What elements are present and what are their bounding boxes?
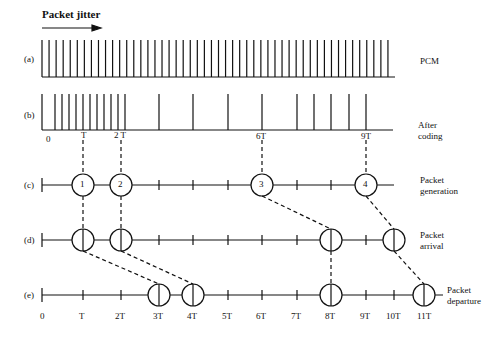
row-label-generation-1: Packet [420, 175, 444, 186]
row-label-departure-2: departure [447, 296, 481, 307]
time-3T: 3T [153, 311, 163, 322]
row-tag-a: (a) [24, 54, 34, 65]
packet-4: 4 [363, 179, 368, 190]
row-label-after: After [418, 120, 437, 131]
time-4T: 4T [187, 311, 197, 322]
row-label-arrival-2: arrival [420, 241, 443, 252]
packet-2: 2 [118, 179, 123, 190]
b-tick-T: T [81, 130, 87, 141]
arrow-right-icon [42, 25, 101, 31]
packet-jitter-diagram [0, 0, 499, 337]
packet-generation-timeline [42, 174, 394, 196]
packet-arrival-timeline [42, 229, 405, 251]
time-7T: 7T [291, 311, 301, 322]
row-tag-b: (b) [24, 110, 35, 121]
b-tick-9T: 9T [361, 131, 371, 142]
b-tick-2T: 2 T [114, 130, 126, 141]
time-T: T [79, 311, 85, 322]
time-10T: 10T [386, 311, 401, 322]
row-tag-e: (e) [24, 290, 34, 301]
packet-1: 1 [80, 179, 85, 190]
b-tick-6T: 6T [256, 131, 266, 142]
time-9T: 9T [360, 311, 370, 322]
row-label-arrival-1: Packet [420, 230, 444, 241]
row-tag-c: (c) [24, 180, 34, 191]
row-label-generation-2: generation [420, 186, 458, 197]
after-coding-pulse-train [42, 94, 393, 130]
packet-departure-timeline [42, 284, 443, 306]
time-0: 0 [40, 311, 45, 322]
row-label-pcm: PCM [420, 56, 439, 67]
row-label-coding: coding [418, 131, 443, 142]
packet-3: 3 [259, 179, 264, 190]
packet-path-connectors [83, 140, 424, 284]
b-tick-0: 0 [46, 134, 51, 145]
time-6T: 6T [256, 311, 266, 322]
time-11T: 11T [417, 311, 431, 322]
time-5T: 5T [222, 311, 232, 322]
row-tag-d: (d) [24, 235, 35, 246]
row-label-departure-1: Packet [447, 285, 471, 296]
time-8T: 8T [325, 311, 335, 322]
pcm-pulse-train [42, 40, 395, 77]
time-2T: 2T [115, 311, 125, 322]
